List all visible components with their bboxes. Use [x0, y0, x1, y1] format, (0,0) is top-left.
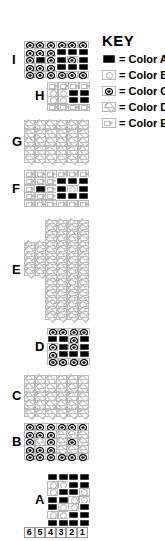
stitch-cell-color-e	[67, 200, 78, 208]
stitch-cell-color-d	[67, 154, 78, 163]
section-label: E	[12, 263, 21, 276]
stitch-cell-color-d	[67, 314, 78, 320]
stitch-number-row: 654321	[24, 527, 88, 538]
stitch-number: 4	[45, 527, 56, 538]
section-label: B	[12, 435, 21, 448]
stitch-cell-color-d	[45, 154, 56, 163]
stitch-cell-color-e	[58, 104, 69, 112]
key-item-color-d: = Color D	[102, 99, 165, 114]
stitch-cell-color-e	[47, 104, 58, 112]
stitch-cell-color-d	[35, 154, 46, 163]
stitch-cell-color-c	[78, 71, 89, 79]
stitch-cell-color-d	[78, 314, 89, 320]
stitch-cell-color-e	[68, 104, 79, 112]
section-label: D	[35, 340, 44, 353]
stitch-number: 5	[35, 527, 46, 538]
stitch-cell-color-c	[35, 71, 46, 79]
filled-black-square-icon	[102, 54, 116, 64]
stitch-cell-color-d	[78, 154, 89, 163]
stitch-cell-color-d	[45, 314, 56, 320]
stitch-cell-color-e	[24, 200, 35, 208]
stitch-cell-color-a	[68, 519, 79, 527]
stitch-cell-color-c	[45, 71, 56, 79]
stitch-cell-color-c	[68, 358, 79, 366]
stitch-cell-color-c	[67, 453, 78, 461]
stitch-cell-color-c	[79, 358, 90, 366]
section-label: G	[12, 135, 22, 148]
diamond-line-icon	[102, 102, 116, 112]
key-item-color-a: = Color A	[102, 51, 165, 66]
stitch-cell-color-d	[24, 270, 35, 276]
stitch-cell-color-e	[35, 200, 46, 208]
key-item-label: = Color B	[119, 69, 165, 81]
stitch-cell-color-c	[45, 453, 56, 461]
section-label: A	[35, 493, 44, 506]
stitch-cell-color-a	[58, 519, 69, 527]
stitch-cell-color-d	[56, 409, 67, 418]
stitch-cell-color-c	[24, 71, 35, 79]
stitch-cell-color-c	[35, 453, 46, 461]
key-title: KEY	[102, 33, 165, 48]
stitch-cell-color-e	[56, 200, 67, 208]
section-label: I	[12, 53, 16, 66]
stitch-cell-color-c	[47, 358, 58, 366]
key-item-label: = Color E	[119, 117, 165, 129]
stitch-cell-color-c	[78, 453, 89, 461]
stitch-cell-color-d	[56, 314, 67, 320]
stitch-cell-color-d	[24, 154, 35, 163]
stitch-cell-color-a	[79, 519, 90, 527]
stitch-cell-color-c	[67, 71, 78, 79]
bullseye-oval-icon	[102, 86, 116, 96]
stitch-cell-color-e	[78, 200, 89, 208]
stitch-cell-color-e	[45, 200, 56, 208]
key-item-color-c: = Color C	[102, 83, 165, 98]
stitch-cell-color-a	[47, 519, 58, 527]
key-item-label: = Color D	[119, 101, 165, 113]
key-item-color-b: = Color B	[102, 67, 165, 82]
stitch-number: 6	[24, 527, 35, 538]
stitch-cell-color-c	[56, 453, 67, 461]
key-item-color-e: = Color E	[102, 115, 165, 130]
stitch-cell-color-d	[45, 409, 56, 418]
section-label: H	[35, 89, 44, 102]
stitch-cell-color-c	[58, 358, 69, 366]
stitch-cell-color-e	[79, 104, 90, 112]
open-circle-icon	[102, 70, 116, 80]
right-arrow-icon	[102, 118, 116, 128]
stitch-number: 1	[77, 527, 88, 538]
key-item-label: = Color C	[119, 85, 165, 97]
stitch-cell-color-d	[78, 409, 89, 418]
stitch-cell-color-d	[35, 409, 46, 418]
stitch-cell-color-d	[56, 154, 67, 163]
stitch-cell-color-d	[67, 409, 78, 418]
stitch-cell-color-d	[24, 409, 35, 418]
stitch-cell-color-c	[56, 71, 67, 79]
section-label: F	[12, 182, 20, 195]
stitch-number: 3	[56, 527, 67, 538]
stitch-number: 2	[66, 527, 77, 538]
section-label: C	[12, 389, 21, 402]
stitch-cell-color-c	[24, 453, 35, 461]
color-key: KEY = Color A= Color B= Color C= Color D…	[102, 33, 165, 131]
key-item-label: = Color A	[119, 53, 165, 65]
